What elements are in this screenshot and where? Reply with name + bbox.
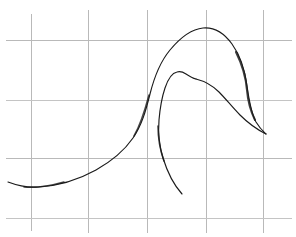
sketch-canvas (0, 0, 296, 237)
sketch-svg (0, 0, 296, 237)
